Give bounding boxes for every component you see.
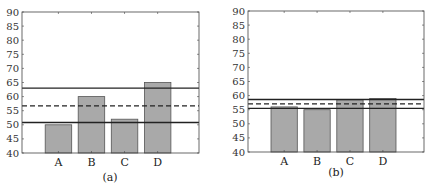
y-tick-label: 50 xyxy=(6,119,19,130)
figure-caption: (a) xyxy=(102,171,117,184)
y-tick-label: 65 xyxy=(232,76,245,87)
y-tick-label: 55 xyxy=(232,104,245,115)
y-tick-label: 80 xyxy=(6,35,19,46)
chart-panel-b: ABCD4045505560657075808590(b) xyxy=(213,0,426,190)
figure-caption: (b) xyxy=(328,166,344,179)
y-tick-label: 45 xyxy=(6,133,19,144)
x-tick-label: A xyxy=(279,155,289,168)
x-tick-label: D xyxy=(378,155,387,168)
x-tick-label: B xyxy=(87,156,95,169)
y-tick-label: 65 xyxy=(6,77,19,88)
x-tick-label: D xyxy=(153,156,162,169)
bar-d xyxy=(144,83,171,154)
y-tick-label: 40 xyxy=(6,148,19,159)
y-tick-label: 45 xyxy=(232,132,245,143)
y-tick-label: 90 xyxy=(232,6,245,17)
bar-a xyxy=(45,125,71,153)
y-tick-label: 40 xyxy=(232,147,245,158)
bar-chart-a: ABCD4045505560657075808590(a) xyxy=(0,0,213,190)
y-tick-label: 75 xyxy=(6,49,19,60)
chart-panel-a: ABCD4045505560657075808590(a) xyxy=(0,0,213,190)
y-tick-label: 70 xyxy=(6,63,19,74)
x-tick-label: A xyxy=(53,156,63,169)
y-tick-label: 70 xyxy=(232,62,245,73)
y-tick-label: 85 xyxy=(6,21,19,32)
bar-c xyxy=(337,100,363,152)
y-tick-label: 60 xyxy=(232,90,245,101)
bar-c xyxy=(111,119,138,153)
y-tick-label: 90 xyxy=(6,7,19,18)
y-tick-label: 85 xyxy=(232,20,245,31)
y-tick-label: 55 xyxy=(6,105,19,116)
bar-chart-b: ABCD4045505560657075808590(b) xyxy=(213,0,426,190)
bar-b xyxy=(304,110,330,152)
x-tick-label: B xyxy=(313,155,321,168)
bar-b xyxy=(78,97,105,153)
bar-d xyxy=(370,98,396,152)
x-tick-label: C xyxy=(346,155,354,168)
x-tick-label: C xyxy=(120,156,128,169)
y-tick-label: 80 xyxy=(232,34,245,45)
y-tick-label: 60 xyxy=(6,91,19,102)
y-tick-label: 75 xyxy=(232,48,245,59)
bar-a xyxy=(271,107,297,152)
y-tick-label: 50 xyxy=(232,118,245,129)
